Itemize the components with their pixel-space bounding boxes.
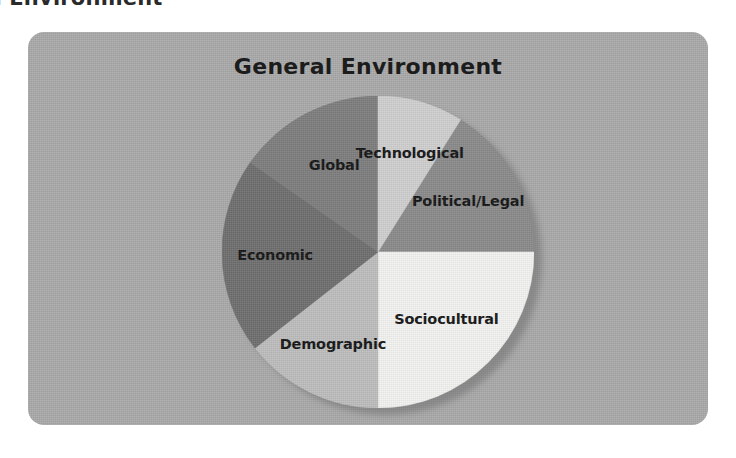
figure-panel: General Environment Political/LegalSocio… [28,32,708,425]
pie-slice-label-economic: Economic [237,247,313,263]
pie-slice-label-political-legal: Political/Legal [412,193,524,209]
cut-off-page-heading-text: General Environment [0,0,163,10]
pie-slice-sociocultural [378,252,534,408]
pie-chart-svg: Political/LegalSocioculturalDemographicE… [222,96,534,408]
pie-slice-label-sociocultural: Sociocultural [394,311,498,327]
pie-chart: Political/LegalSocioculturalDemographicE… [222,96,534,408]
pie-slice-label-demographic: Demographic [280,336,386,352]
figure-title: General Environment [28,54,708,79]
cut-off-page-heading: General Environment [0,0,420,12]
pie-slice-label-global: Global [309,157,360,173]
pie-slice-label-technological: Technological [356,145,464,161]
